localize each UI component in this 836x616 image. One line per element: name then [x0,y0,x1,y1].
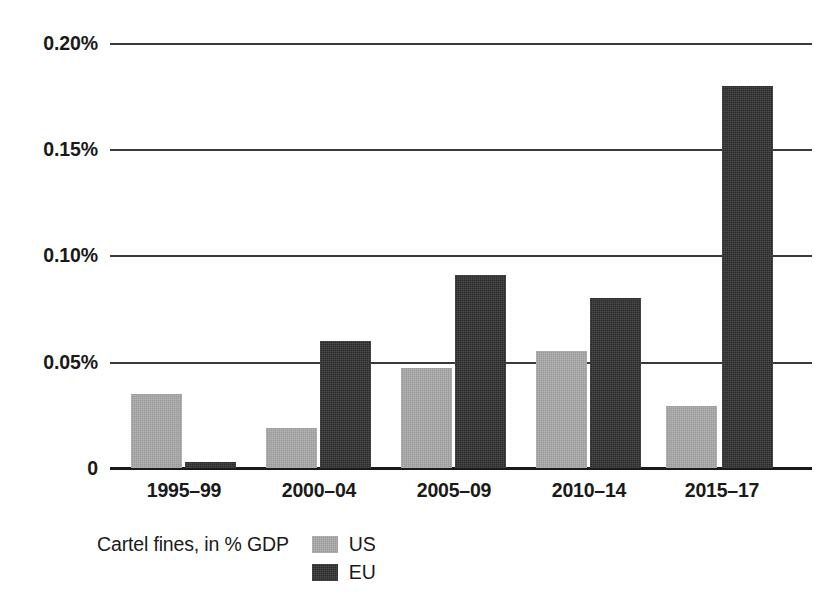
bar-us-1995-99 [131,394,182,468]
y-axis: 0.20% 0.15% 0.10% 0.05% 0 [0,0,110,616]
x-tick-label-2000-04: 2000–04 [282,479,357,502]
y-tick-label: 0.20% [43,32,98,55]
bar-us-2000-04 [266,428,317,468]
plot-area [110,43,812,468]
y-tick-label: 0.10% [43,244,98,267]
bar-eu-1995-99 [185,462,236,468]
x-tick-label-2005-09: 2005–09 [417,479,492,502]
legend-swatch-eu-icon [312,564,338,581]
legend: Cartel fines, in % GDP US EU [97,530,376,586]
bar-us-2015-17 [666,406,717,468]
bar-eu-2000-04 [320,341,371,469]
legend-item-eu: EU [312,558,376,586]
legend-title: Cartel fines, in % GDP [97,530,289,558]
bar-us-2005-09 [401,368,452,468]
x-tick-label-1995-99: 1995–99 [147,479,222,502]
bar-us-2010-14 [536,351,587,468]
y-tick-label: 0.05% [43,351,98,374]
legend-label-us: US [349,533,376,556]
bar-eu-2010-14 [590,298,641,468]
bar-eu-2015-17 [722,86,773,469]
x-tick-label-2015-17: 2015–17 [685,479,760,502]
y-tick-label: 0 [87,457,98,480]
bar-eu-2005-09 [455,275,506,468]
legend-label-eu: EU [349,561,376,584]
y-tick-label: 0.15% [43,138,98,161]
x-tick-label-2010-14: 2010–14 [552,479,627,502]
bar-chart: 0.20% 0.15% 0.10% 0.05% 0 1995–99 2000–0… [0,0,836,616]
legend-entries: US EU [312,530,376,586]
legend-item-us: US [312,530,376,558]
legend-swatch-us-icon [312,536,338,553]
